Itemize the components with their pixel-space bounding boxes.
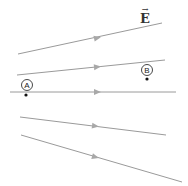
point-dot bbox=[24, 93, 27, 96]
field-line-1 bbox=[18, 23, 162, 54]
arrowhead-icon bbox=[94, 89, 101, 95]
point-dot bbox=[145, 77, 148, 80]
field-label-e: → E bbox=[139, 7, 151, 25]
field-line-2 bbox=[17, 60, 165, 75]
field-line-5 bbox=[21, 135, 182, 182]
point-label: A bbox=[24, 81, 30, 90]
arrowhead-icon bbox=[93, 34, 101, 41]
field-lines-canvas: AB bbox=[0, 0, 188, 186]
point-label: B bbox=[144, 66, 149, 75]
arrowhead-icon bbox=[94, 64, 102, 71]
arrowhead-icon bbox=[92, 123, 100, 130]
point-b: B bbox=[142, 65, 153, 81]
point-a: A bbox=[22, 80, 33, 97]
electric-field-diagram: AB → E bbox=[0, 0, 188, 186]
